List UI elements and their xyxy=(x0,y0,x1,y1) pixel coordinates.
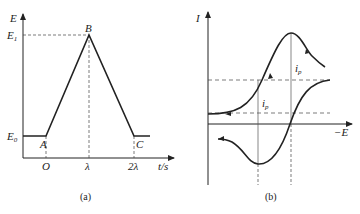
figure-canvas: E E1 E0 A B C O λ 2λ t/s (a) I xyxy=(0,0,360,214)
x-label-b: −E xyxy=(334,126,348,138)
tick-2lambda: 2λ xyxy=(128,160,139,172)
y-label-b: I xyxy=(195,12,201,24)
panel-a: E E1 E0 A B C O λ 2λ t/s (a) xyxy=(6,12,174,203)
anodic-ip-label: ip xyxy=(295,62,302,76)
tick-lambda: λ xyxy=(84,160,90,172)
cathodic-ip-label: ip xyxy=(262,97,269,111)
tick-e0: E0 xyxy=(6,130,18,144)
direction-arrow-icon xyxy=(268,73,273,79)
y-label-a: E xyxy=(9,12,17,24)
triangular-waveform xyxy=(23,35,150,136)
cv-forward-branch xyxy=(208,33,325,114)
tick-o: O xyxy=(42,160,50,172)
point-c-label: C xyxy=(136,138,144,150)
point-a-label: A xyxy=(39,138,47,150)
caption-b: (b) xyxy=(265,191,277,203)
tick-e1: E1 xyxy=(6,29,17,43)
cv-reverse-branch xyxy=(218,80,330,164)
x-label-a: t/s xyxy=(158,160,168,172)
panel-b: I −E ip ip (b) xyxy=(195,12,352,203)
point-b-label: B xyxy=(85,22,92,34)
caption-a: (a) xyxy=(80,191,91,203)
